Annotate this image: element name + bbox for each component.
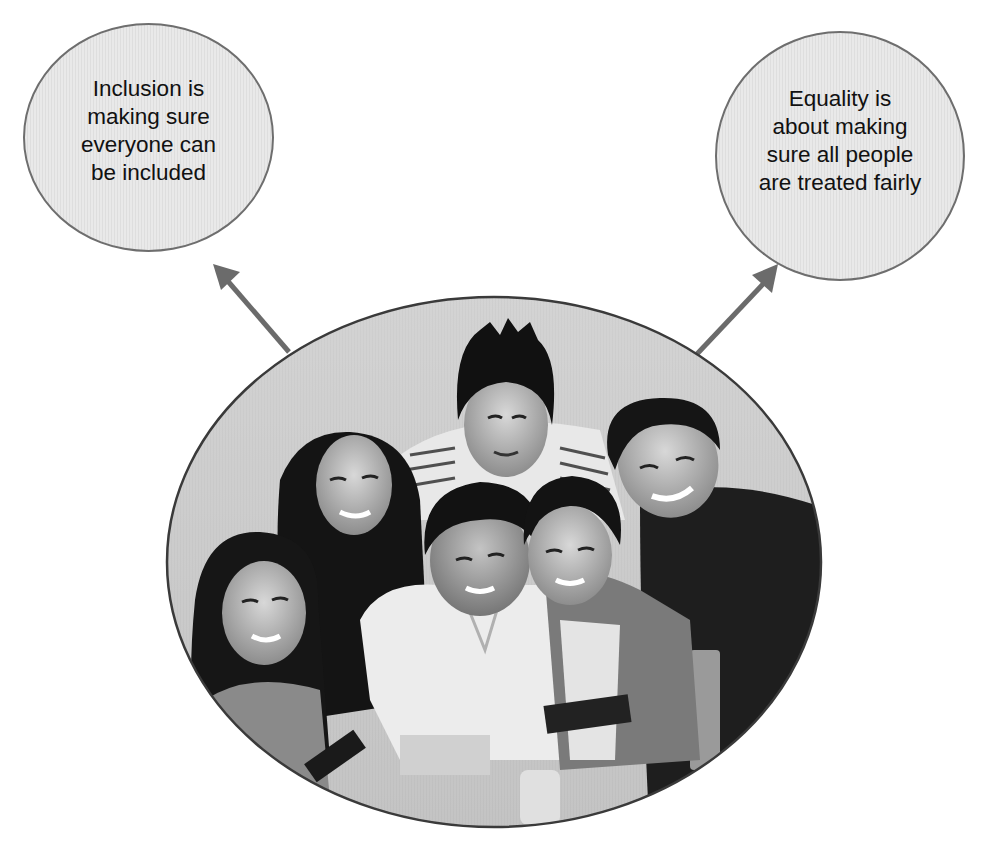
inclusion-line-1: Inclusion is [93,75,204,103]
equality-line-1: Equality is [789,85,892,113]
equality-definition: Equality is about making sure all people… [759,85,922,197]
inclusion-line-2: making sure [87,103,210,131]
equality-line-3: sure all people [767,141,913,169]
concept-circle-inclusion: Inclusion is making sure everyone can be… [23,23,274,252]
concept-circle-equality: Equality is about making sure all people… [715,31,965,281]
equality-line-4: are treated fairly [759,169,922,197]
arrow-to-equality [697,264,778,354]
diagram: Inclusion is making sure everyone can be… [0,0,987,848]
group-photo [160,290,840,840]
arrow-to-inclusion [213,264,289,352]
inclusion-definition: Inclusion is making sure everyone can be… [81,75,216,187]
inclusion-line-4: be included [91,159,206,187]
equality-line-2: about making [772,113,907,141]
inclusion-line-3: everyone can [81,131,216,159]
